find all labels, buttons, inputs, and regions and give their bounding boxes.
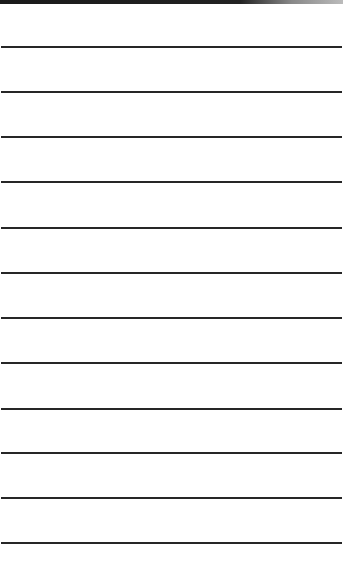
ruled-line: [1, 272, 342, 274]
top-edge-band: [0, 0, 343, 4]
ruled-line: [1, 46, 342, 48]
ruled-line: [1, 181, 342, 183]
ruled-line: [1, 317, 342, 319]
ruled-line: [1, 136, 342, 138]
ruled-line: [1, 227, 342, 229]
ruled-line: [1, 542, 342, 544]
ruled-line: [1, 362, 342, 364]
ruled-line: [1, 452, 342, 454]
ruled-line: [1, 408, 342, 410]
ruled-line: [1, 497, 342, 499]
ruled-line: [1, 91, 342, 93]
